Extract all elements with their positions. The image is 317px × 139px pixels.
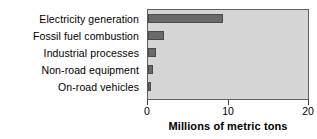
category-axis-labels: Electricity generation Fossil fuel combu… [0, 10, 143, 100]
category-label-industrial-processes: Industrial processes [44, 45, 139, 62]
bar-non-road-equipment [148, 65, 153, 74]
bar-electricity-generation [148, 14, 223, 23]
category-label-on-road-vehicles: On-road vehicles [58, 79, 139, 96]
category-label-non-road-equipment: Non-road equipment [41, 62, 139, 79]
x-axis-title: Millions of metric tons [147, 120, 309, 132]
category-label-electricity-generation: Electricity generation [39, 11, 139, 28]
bar-fossil-fuel-combustion [148, 31, 164, 40]
bar-chart: Electricity generation Fossil fuel combu… [0, 0, 317, 139]
x-tick-label-0: 0 [127, 105, 167, 118]
x-tick-label-10: 10 [208, 105, 248, 118]
bar-on-road-vehicles [148, 82, 151, 91]
bars-group [148, 10, 308, 99]
bar-industrial-processes [148, 48, 156, 57]
category-label-fossil-fuel-combustion: Fossil fuel combustion [33, 28, 139, 45]
x-tick-label-20: 20 [288, 105, 317, 118]
plot-area [147, 9, 309, 100]
